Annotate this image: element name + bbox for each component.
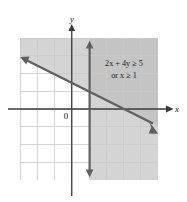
origin-label: 0	[64, 111, 69, 121]
graph-canvas: x y 0 2x + 4y ≥ 5 or x ≥ 1	[0, 0, 187, 202]
inequality-graph-figure: x y 0 2x + 4y ≥ 5 or x ≥ 1	[0, 0, 187, 202]
y-axis-arrowhead	[68, 24, 75, 31]
inequality-annotation-line-1: 2x + 4y ≥ 5	[105, 59, 143, 68]
x-axis-label: x	[174, 104, 179, 114]
inequality-annotation-line-2: or x ≥ 1	[111, 71, 137, 80]
y-axis-label: y	[69, 14, 74, 24]
x-axis-arrowhead	[166, 106, 174, 113]
